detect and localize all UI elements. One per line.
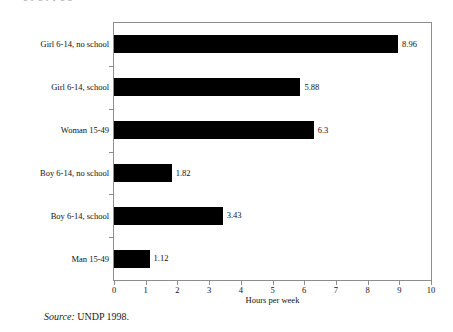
bar [114, 207, 223, 225]
bar-row: 6.3 [114, 109, 431, 152]
source-text: UNDP 1998. [77, 311, 129, 322]
category-label: Boy 6-14, no school [0, 169, 109, 178]
bar-value-label: 6.3 [318, 126, 329, 135]
bar-value-label: 1.82 [176, 169, 191, 178]
y-axis-tick [109, 152, 114, 153]
bar [114, 121, 314, 139]
bar-row: 1.82 [114, 152, 431, 195]
bar-value-label: 3.43 [227, 211, 242, 220]
bar [114, 78, 300, 96]
x-axis-tick-label: 8 [365, 286, 369, 295]
bar [114, 250, 150, 268]
figure-container: g p g p y g g Girl 6-14, no schoolGirl 6… [0, 0, 453, 332]
source-label: Source: [44, 311, 75, 322]
x-axis-tick-label: 9 [397, 286, 401, 295]
x-axis-tick-label: 6 [302, 286, 306, 295]
bar [114, 164, 172, 182]
truncated-title-strip: g p g p y g g [0, 0, 453, 9]
bar-row: 8.96 [114, 23, 431, 66]
x-axis-tick-label: 3 [207, 286, 211, 295]
x-axis-title: Hours per week [113, 296, 432, 305]
x-axis-tick-label: 0 [112, 286, 116, 295]
category-label: Man 15-49 [0, 255, 109, 264]
bar-row: 3.43 [114, 194, 431, 237]
bar-row: 5.88 [114, 66, 431, 109]
x-axis-tick-label: 1 [144, 286, 148, 295]
bar-row: 1.12 [114, 237, 431, 280]
category-label: Boy 6-14, school [0, 212, 109, 221]
x-axis-tick-label: 7 [334, 286, 338, 295]
y-axis-tick [109, 109, 114, 110]
y-axis-tick [109, 66, 114, 67]
category-label: Girl 6-14, no school [0, 40, 109, 49]
x-axis-tick-label: 5 [270, 286, 274, 295]
x-axis-tick-label: 2 [175, 286, 179, 295]
y-axis-tick [109, 237, 114, 238]
category-label: Girl 6-14, school [0, 83, 109, 92]
bars-layer: 8.965.886.31.823.431.12 [114, 23, 431, 280]
category-axis-labels: Girl 6-14, no schoolGirl 6-14, schoolWom… [0, 23, 109, 280]
bar-value-label: 5.88 [304, 83, 319, 92]
x-axis-tick-label: 10 [427, 286, 436, 295]
y-axis-tick [109, 194, 114, 195]
figure-title: g p g p y g g [24, 0, 74, 1]
source-note: Source: UNDP 1998. [44, 312, 129, 322]
bar-value-label: 1.12 [154, 254, 169, 263]
bar [114, 35, 398, 53]
x-axis-tick-label: 4 [239, 286, 243, 295]
bar-value-label: 8.96 [402, 40, 417, 49]
category-label: Woman 15-49 [0, 126, 109, 135]
